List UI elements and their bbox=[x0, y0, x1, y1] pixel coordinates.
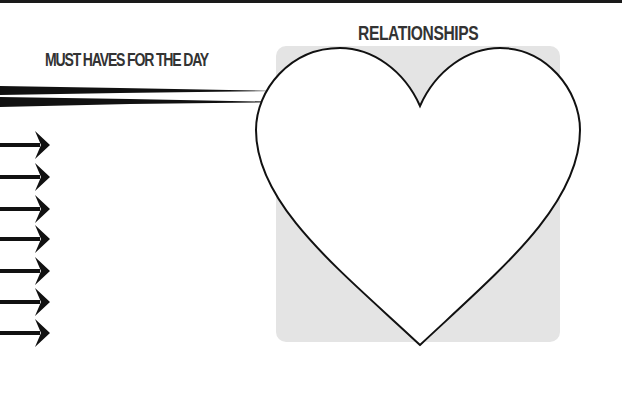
right-arrow-icon bbox=[0, 131, 50, 159]
right-arrow-icon bbox=[0, 319, 50, 347]
heart-icon bbox=[256, 48, 580, 345]
brush-stroke-1 bbox=[0, 86, 276, 95]
decor-layer bbox=[0, 0, 622, 396]
right-arrow-icon bbox=[0, 288, 50, 316]
right-arrow-icon bbox=[0, 225, 50, 253]
right-arrow-icon bbox=[0, 195, 50, 223]
right-arrow-icon bbox=[0, 163, 50, 191]
brush-strokes bbox=[0, 86, 288, 107]
brush-stroke-2 bbox=[0, 97, 288, 107]
right-arrow-icon bbox=[0, 257, 50, 285]
arrow-list bbox=[0, 131, 50, 347]
